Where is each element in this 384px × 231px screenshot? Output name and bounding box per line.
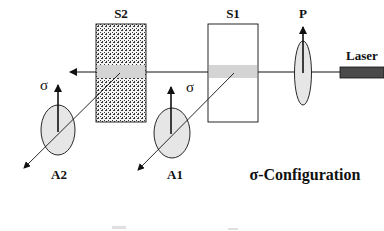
sample-s2: S2 <box>96 6 146 122</box>
analyzer-a1-label: A1 <box>167 167 183 182</box>
sample-s1-label: S1 <box>226 6 240 21</box>
polarizer: P <box>295 6 312 105</box>
cut-off-text-fragments <box>112 226 238 230</box>
a2-sigma-label: σ <box>40 77 48 93</box>
configuration-title: σ-Configuration <box>250 166 361 184</box>
sigma-configuration-diagram: Laser P S1 S2 σ A1 σ A2 σ-Configuration <box>0 0 384 231</box>
analyzer-a2-label: A2 <box>51 167 67 182</box>
analyzer-a1-ellipse <box>154 108 190 158</box>
sample-s2-beam-band <box>97 65 145 78</box>
polarizer-label: P <box>299 6 307 21</box>
sample-s1-beam-band <box>209 65 257 78</box>
laser-label: Laser <box>346 48 378 63</box>
a1-sigma-label: σ <box>186 79 194 95</box>
laser-body <box>340 67 384 78</box>
laser: Laser <box>340 48 384 78</box>
sample-s1: S1 <box>208 6 258 122</box>
sample-s2-label: S2 <box>114 6 128 21</box>
